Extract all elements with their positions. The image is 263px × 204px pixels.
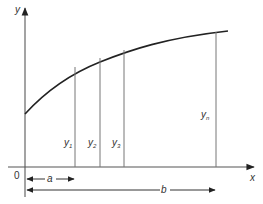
svg-text:y1: y1: [63, 137, 72, 149]
ordinate-label-y2: y2: [87, 137, 97, 149]
diagram-canvas: y x 0 y1 y2 y3 yn a b: [0, 0, 263, 204]
x-axis-label: x: [249, 172, 256, 183]
dimension-a-label: a: [47, 173, 53, 184]
origin-label: 0: [14, 170, 20, 181]
svg-text:yn: yn: [200, 109, 210, 121]
dimension-b-label: b: [161, 184, 167, 195]
ordinate-label-y3: y3: [111, 137, 121, 149]
ordinate-label-yn: yn: [200, 109, 210, 121]
svg-text:y3: y3: [111, 137, 121, 149]
ordinate-label-y1: y1: [63, 137, 72, 149]
svg-text:y2: y2: [87, 137, 97, 149]
curve: [25, 31, 228, 114]
y-axis-label: y: [14, 4, 21, 15]
